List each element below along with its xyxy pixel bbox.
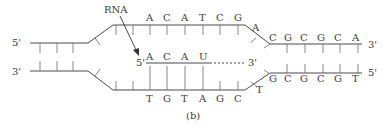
top-base: G — [234, 12, 242, 23]
right-top-base: C — [269, 32, 277, 43]
rna-arrow — [120, 16, 137, 52]
rna-base: U — [199, 51, 207, 62]
right-bottom-base: C — [317, 73, 325, 84]
top-base: C — [163, 12, 171, 23]
rna-3prime-label: 3' — [248, 57, 257, 68]
right-bottom-base: T — [352, 73, 359, 84]
top-strand-bubble: A C A T C G A — [116, 12, 270, 48]
panel-label: (b) — [186, 110, 200, 121]
coding-strand-line — [30, 25, 362, 44]
top-base: C — [216, 12, 224, 23]
transcription-bubble-diagram: 5' 3' A C A T C G A C G C — [0, 0, 389, 128]
template-strand-line — [30, 71, 362, 90]
right-top-3prime-label: 3' — [368, 39, 377, 50]
right-top-base: A — [351, 32, 360, 43]
bottom-strand-bubble: T G T A G C T — [116, 66, 270, 104]
left-bottom-3prime-label: 3' — [12, 66, 21, 77]
rna-base: A — [180, 51, 189, 62]
right-bottom-base: G — [269, 73, 277, 84]
left-top-5prime-label: 5' — [12, 37, 21, 48]
bottom-base: A — [198, 93, 207, 104]
top-fork-base: A — [251, 22, 260, 33]
right-bottom-base: G — [334, 73, 342, 84]
right-bottom-5prime-label: 5' — [368, 67, 377, 78]
bottom-base: T — [146, 93, 153, 104]
right-top-base: G — [284, 32, 292, 43]
bottom-base: T — [181, 93, 188, 104]
right-top-base: G — [317, 32, 325, 43]
right-top-base: C — [334, 32, 342, 43]
right-bottom-base: C — [284, 73, 292, 84]
bottom-base: C — [234, 93, 242, 104]
right-duplex: C G C G C A 3' G C G C G T 5' — [269, 32, 377, 84]
arrow-head-icon — [133, 48, 139, 56]
bottom-base: G — [163, 93, 171, 104]
bottom-fork-base: T — [256, 84, 263, 95]
right-top-base: C — [300, 32, 308, 43]
bottom-base: G — [216, 93, 224, 104]
top-base: T — [199, 12, 206, 23]
rna-label: RNA — [104, 4, 128, 15]
top-base: A — [180, 12, 189, 23]
rna-base: A — [145, 51, 154, 62]
top-base: A — [145, 12, 154, 23]
rna-base: C — [163, 51, 171, 62]
right-bottom-base: G — [300, 73, 308, 84]
rna-5prime-label: 5' — [136, 57, 145, 68]
